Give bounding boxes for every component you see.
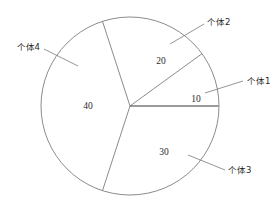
slice-value-label: 30 bbox=[159, 147, 169, 157]
slice-value-label: 40 bbox=[83, 101, 93, 111]
slice-category-label: 个体4 bbox=[17, 42, 40, 52]
pie-chart-svg: 10203040 个体1个体2个体3个体4 bbox=[0, 0, 280, 209]
slice-category-label: 个体2 bbox=[207, 17, 230, 27]
pie-chart-figure: 10203040 个体1个体2个体3个体4 bbox=[0, 0, 280, 209]
slice-category-label: 个体3 bbox=[228, 165, 251, 175]
slice-category-label: 个体1 bbox=[247, 76, 270, 86]
slice-value-label: 20 bbox=[156, 56, 166, 66]
slice-value-label: 10 bbox=[191, 94, 201, 104]
